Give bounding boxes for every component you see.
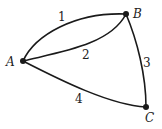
edge-label-1: 1	[58, 10, 66, 24]
edge-1	[23, 14, 126, 61]
node-a	[20, 58, 26, 64]
node-b	[123, 11, 129, 17]
edge-4	[23, 61, 146, 107]
edge-label-2: 2	[82, 48, 90, 62]
edge-label-3: 3	[143, 56, 151, 70]
graph-diagram: 1 2 3 4 A B C	[0, 0, 162, 129]
node-label-b: B	[132, 7, 142, 21]
edge-label-4: 4	[75, 92, 83, 106]
node-label-a: A	[5, 55, 15, 69]
node-label-c: C	[145, 111, 154, 125]
node-c	[143, 104, 149, 110]
